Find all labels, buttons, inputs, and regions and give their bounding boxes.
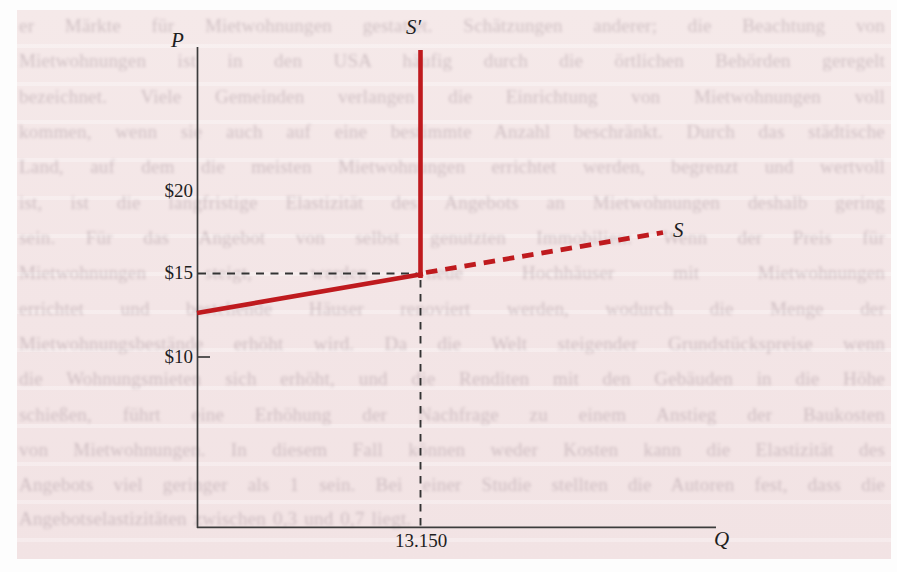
inelastic-supply-label: S′: [406, 17, 421, 38]
supply-curve-label: S: [673, 220, 684, 241]
supply-curve-dashed-segment: [426, 233, 663, 273]
x-tick-label-quantity: 13.150: [389, 531, 453, 550]
supply-figure-canvas: [0, 0, 897, 572]
supply-curve-solid-segment: [197, 274, 423, 313]
y-tick-label-10: $10: [149, 347, 193, 366]
scanned-textbook-page: er Märkte für Mietwohnungen gestattet. S…: [0, 0, 897, 572]
y-axis-label: P: [171, 30, 184, 51]
y-tick-label-20: $20: [149, 181, 193, 200]
y-tick-label-15: $15: [149, 263, 193, 282]
x-axis-label: Q: [714, 529, 729, 550]
